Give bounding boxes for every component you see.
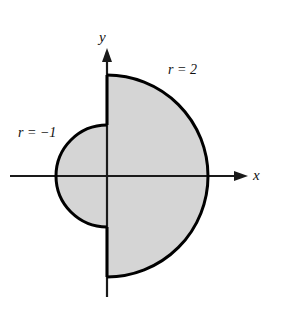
graph-canvas <box>0 0 287 310</box>
y-axis-arrow-icon <box>102 48 112 62</box>
y-axis-label: y <box>99 30 106 45</box>
x-axis-label: x <box>253 168 260 183</box>
x-axis-arrow-icon <box>234 171 248 181</box>
polar-graph-figure: y x r = 2 r = −1 <box>0 0 287 310</box>
inner-curve-label: r = −1 <box>18 126 56 140</box>
outer-curve-label: r = 2 <box>168 63 197 77</box>
